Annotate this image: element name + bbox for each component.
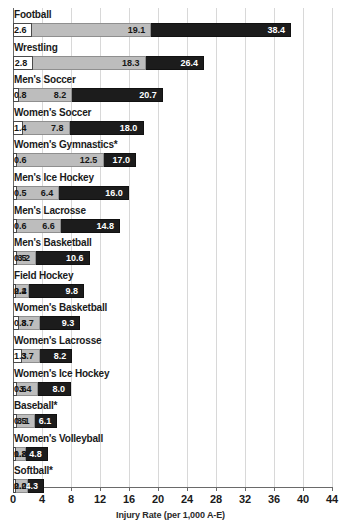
bar-group: 16.06.40.5 [13,186,332,200]
bar-row: Men's Soccer20.78.20.8 [13,73,332,106]
bar-value-label: 0.4 [14,284,27,298]
category-label: Men's Ice Hockey [14,172,94,184]
x-tick-label: 4 [39,492,45,506]
bar-rows: Football38.419.12.6Wrestling26.418.32.8M… [13,8,332,497]
bar-value-label: 8.2 [54,349,67,363]
bar-value-label: 20.7 [139,88,157,102]
category-label: Women's Soccer [14,107,91,119]
bar-value-label: 26.4 [181,56,199,70]
category-label: Field Hockey [14,270,73,282]
bar-value-label: 2.6 [14,23,27,37]
injury-rate-bar-chart: Football38.419.12.6Wrestling26.418.32.8M… [0,0,341,529]
bar-value-label: 9.3 [62,316,75,330]
bar-value-label: 0.2 [14,479,27,493]
x-tick-label: 12 [94,492,106,506]
tick-mark [129,487,130,491]
bar-row: Wrestling26.418.32.8 [13,41,332,74]
category-label: Men's Lacrosse [14,205,86,217]
bar-group: 6.13.10.5 [13,414,332,428]
bar-value-label: 0.8 [14,88,27,102]
bar-value-label: 9.8 [65,284,78,298]
bar-value-label: 1.3 [14,349,27,363]
bar-row: Men's Basketball10.63.20.5 [13,236,332,269]
x-tick-label: 40 [297,492,309,506]
x-tick-label: 16 [123,492,135,506]
bar-value-label: 6.1 [39,414,52,428]
x-tick-label: 36 [268,492,280,506]
bar-row: Football38.419.12.6 [13,8,332,41]
bar-row: Women's Lacrosse8.23.71.3 [13,334,332,367]
bar-value-label: 8.0 [52,382,65,396]
x-axis-ticks: 048121620242832364044 [13,492,332,508]
bar-value-label: 18.3 [122,56,140,70]
tick-mark [100,487,101,491]
category-label: Women's Basketball [14,302,107,314]
tick-mark [71,487,72,491]
category-label: Women's Volleyball [14,433,103,445]
tick-mark [158,487,159,491]
bar-group: 26.418.32.8 [13,56,332,70]
bar-value-label: 0.5 [14,414,27,428]
bar-group: 18.07.81.4 [13,121,332,135]
tick-mark [303,487,304,491]
category-label: Men's Basketball [14,237,92,249]
category-label: Wrestling [14,42,58,54]
bar-row: Men's Ice Hockey16.06.40.5 [13,171,332,204]
bar-row: Women's Basketball9.33.70.8 [13,301,332,334]
bar-value-label: 2.8 [15,56,28,70]
x-tick-label: 44 [326,492,338,506]
category-label: Softball* [14,465,53,477]
bar-value-label: 14.8 [97,219,115,233]
bar-group: 17.012.50.6 [13,153,332,167]
bar-group: 4.81.80.2 [13,447,332,461]
x-axis-title: Injury Rate (per 1,000 A-E) [0,510,341,520]
bar-group: 10.63.20.5 [13,251,332,265]
bar-value-label: 6.6 [42,219,55,233]
bar-value-label: 18.0 [120,121,138,135]
bar-value-label: 0.8 [14,316,27,330]
bar-value-label: 12.5 [80,153,98,167]
bar-value-label: 4.3 [26,479,39,493]
bar-row: Women's Gymnastics*17.012.50.6 [13,138,332,171]
gridline [332,8,333,488]
bar-value-label: 17.0 [112,153,130,167]
x-tick-label: 24 [181,492,193,506]
x-tick-label: 8 [68,492,74,506]
category-label: Women's Lacrosse [14,335,101,347]
category-label: Women's Ice Hockey [14,368,109,380]
x-tick-label: 32 [239,492,251,506]
bar-value-label: 0.6 [14,153,27,167]
bar-group: 9.82.20.4 [13,284,332,298]
category-label: Baseball* [14,400,57,412]
x-tick-label: 20 [152,492,164,506]
bar-group: 9.33.70.8 [13,316,332,330]
bar-group: 14.86.60.6 [13,219,332,233]
bar-group: 38.419.12.6 [13,23,332,37]
bar-group: 8.03.40.6 [13,382,332,396]
tick-mark [274,487,275,491]
bar-group: 8.23.71.3 [13,349,332,363]
plot-area: Football38.419.12.6Wrestling26.418.32.8M… [13,8,332,488]
bar-value-label: 8.2 [54,88,67,102]
bar-value-label: 0.6 [14,219,27,233]
bar-value-label: 0.2 [14,447,27,461]
category-label: Men's Soccer [14,74,76,86]
x-tick-label: 0 [10,492,16,506]
bar-value-label: 19.1 [128,23,146,37]
bar-row: Women's Soccer18.07.81.4 [13,106,332,139]
bar-value-label: 0.5 [14,186,27,200]
tick-mark [245,487,246,491]
category-label: Women's Gymnastics* [14,139,117,151]
bar-row: Men's Lacrosse14.86.60.6 [13,204,332,237]
bar-row: Women's Volleyball4.81.80.2 [13,432,332,465]
tick-mark [332,487,333,491]
bar-value-label: 6.4 [41,186,54,200]
bar-row: Women's Ice Hockey8.03.40.6 [13,367,332,400]
bar-value-label: 10.6 [66,251,84,265]
bar-value-label: 0.6 [14,382,27,396]
bar-value-label: 38.4 [268,23,286,37]
bar-row: Baseball*6.13.10.5 [13,399,332,432]
bar-group: 20.78.20.8 [13,88,332,102]
tick-mark [187,487,188,491]
bar-value-label: 7.8 [51,121,64,135]
